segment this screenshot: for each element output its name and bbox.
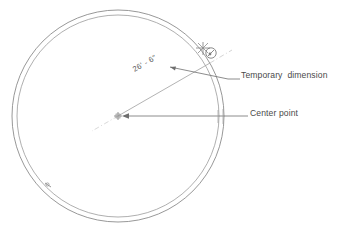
drawing-vector-layer <box>0 0 351 227</box>
dimension-extension-upper <box>210 50 232 63</box>
center-point-marker[interactable] <box>114 112 122 120</box>
leader-line-temporary-dimension <box>170 67 228 79</box>
annotation-label-temporary-dimension: Temporary dimension <box>241 71 328 80</box>
dimension-extension-lower <box>92 116 118 131</box>
leader-arrowhead-center-point <box>122 113 129 119</box>
leader-arrowhead-temporary-dimension <box>170 67 176 71</box>
annotation-label-center-point: Center point <box>250 109 298 118</box>
cursor-circle-dot <box>209 53 212 56</box>
center-point-leader <box>122 113 248 119</box>
temporary-dimension-line-group[interactable] <box>92 50 232 131</box>
dimension-radius-line[interactable] <box>118 63 210 116</box>
cad-drawing-canvas: 26' - 6" Temporary dimension Center poin… <box>0 0 351 227</box>
temporary-dimension-leader <box>170 67 240 80</box>
cursor-circle-slash <box>208 50 214 56</box>
circle-cursor-icon <box>206 48 216 58</box>
